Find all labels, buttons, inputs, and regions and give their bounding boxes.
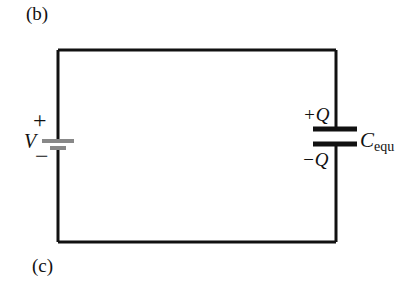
capacitor-top-charge: +Q (303, 105, 330, 124)
battery-plus-sign: + (33, 108, 47, 132)
circuit-diagram (0, 0, 402, 284)
circuit-wires (58, 50, 336, 242)
capacitor-name-label: Cequ (360, 130, 394, 154)
capacitor-bottom-charge: −Q (302, 150, 329, 169)
battery-minus-sign: − (35, 144, 49, 168)
capacitor-icon (313, 129, 357, 144)
capacitor-subscript: equ (374, 139, 394, 154)
capacitor-symbol: C (360, 128, 374, 152)
